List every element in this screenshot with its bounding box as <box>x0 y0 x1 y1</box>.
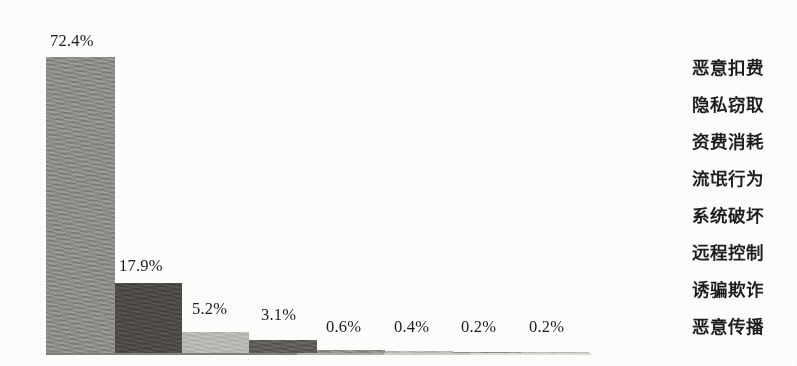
legend-item-2: 隐私窃取 <box>664 87 792 124</box>
bar-5-value-label: 0.6% <box>326 317 361 337</box>
bar-1 <box>46 57 115 353</box>
bar-2-texture <box>115 283 182 353</box>
bar-chart: 72.4% 17.9% 5.2% 3.1% 0.6% 0.4% 0.2% <box>0 0 797 366</box>
bar-4-texture <box>249 340 317 353</box>
plot-area: 72.4% 17.9% 5.2% 3.1% 0.6% 0.4% 0.2% <box>0 0 640 366</box>
legend-item-4: 流氓行为 <box>664 161 792 198</box>
bar-8-value-label: 0.2% <box>529 317 564 337</box>
legend-item-7: 诱骗欺诈 <box>664 272 792 309</box>
bar-1-value-label: 72.4% <box>50 31 94 51</box>
bar-2 <box>115 283 182 353</box>
bar-1-texture <box>46 57 115 353</box>
bar-2-value-label: 17.9% <box>119 256 163 276</box>
bar-4 <box>249 340 317 353</box>
bar-3-texture <box>182 332 249 353</box>
legend-item-8: 恶意传播 <box>664 309 792 346</box>
bar-7-value-label: 0.2% <box>461 317 496 337</box>
bar-3 <box>182 332 249 353</box>
axis-baseline <box>46 353 591 355</box>
bar-6-value-label: 0.4% <box>394 317 429 337</box>
legend-item-3: 资费消耗 <box>664 124 792 161</box>
bar-3-value-label: 5.2% <box>192 299 227 319</box>
legend: 恶意扣费 隐私窃取 资费消耗 流氓行为 系统破坏 远程控制 诱骗欺诈 恶意传播 <box>664 50 792 346</box>
legend-item-5: 系统破坏 <box>664 198 792 235</box>
legend-item-6: 远程控制 <box>664 235 792 272</box>
legend-item-1: 恶意扣费 <box>664 50 792 87</box>
bar-4-value-label: 3.1% <box>261 305 296 325</box>
